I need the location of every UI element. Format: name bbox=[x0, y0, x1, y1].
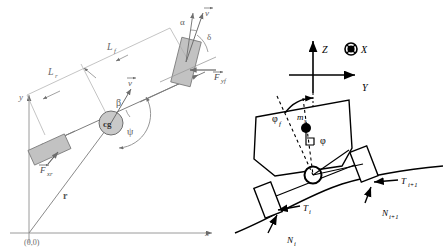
label-r-text: r bbox=[63, 190, 68, 201]
position-vector-r bbox=[29, 123, 111, 233]
label-phi-f-text: φ bbox=[272, 113, 278, 124]
label-Lr: L r bbox=[47, 66, 58, 80]
label-Ni1-sub: i+1 bbox=[389, 213, 398, 220]
x-axis-label: x bbox=[204, 228, 209, 238]
psi-yaw-arc bbox=[119, 97, 151, 148]
label-Lf-sub: f bbox=[114, 47, 117, 55]
Z-axis-label: Z bbox=[322, 44, 328, 55]
label-ms-text: m bbox=[297, 112, 304, 122]
circle-cross-icon bbox=[345, 43, 357, 55]
label-Lf-text: L bbox=[106, 41, 113, 52]
label-Ni-sub: i bbox=[294, 240, 296, 247]
right-panel-group: Z Y X φ f φ m s T i N i T i+1 bbox=[235, 41, 443, 247]
label-Fxr-sub: xr bbox=[46, 170, 53, 177]
alpha-angle-arc bbox=[191, 30, 197, 31]
label-v-front: v bbox=[204, 8, 213, 18]
label-Ni: N i bbox=[286, 235, 296, 247]
label-Fxr: F xr bbox=[39, 165, 53, 177]
label-delta: δ bbox=[207, 32, 211, 42]
label-Ti-sub: i bbox=[309, 208, 311, 215]
right-normal-force-arrow bbox=[365, 187, 371, 203]
label-psi: ψ bbox=[127, 126, 134, 137]
label-v-cg: v bbox=[127, 78, 136, 88]
X-axis-label: X bbox=[360, 44, 368, 55]
label-Ni-text: N bbox=[286, 235, 294, 245]
label-beta: β bbox=[116, 97, 121, 108]
beta-angle-arc bbox=[126, 110, 130, 117]
label-Fyf: F yf bbox=[213, 72, 227, 84]
right-tangential-force-arrow bbox=[374, 180, 398, 182]
label-Ti1: T i+1 bbox=[401, 176, 417, 188]
label-Ti1-sub: i+1 bbox=[408, 181, 417, 188]
label-Lr-text: L bbox=[47, 66, 54, 77]
label-Ni1: N i+1 bbox=[381, 208, 398, 220]
diagram-svg: x y (0,0) L f L r cg β ψ α δ v v bbox=[0, 0, 446, 251]
label-Fyf-text: F bbox=[213, 72, 220, 82]
label-v-cg-text: v bbox=[128, 78, 132, 88]
label-Fxr-text: F bbox=[39, 165, 46, 175]
label-Ni1-text: N bbox=[381, 208, 389, 218]
figure-container: x y (0,0) L f L r cg β ψ α δ v v bbox=[0, 0, 446, 251]
Y-axis-label: Y bbox=[362, 82, 369, 93]
label-phi: φ bbox=[320, 135, 326, 146]
label-Lr-sub: r bbox=[55, 72, 58, 80]
label-Ti1-text: T bbox=[401, 176, 407, 186]
label-cg: cg bbox=[103, 119, 112, 129]
label-Ti: T i bbox=[303, 203, 311, 215]
left-wheel bbox=[254, 182, 282, 218]
rear-wheel bbox=[28, 134, 71, 165]
label-Lf: L f bbox=[106, 41, 117, 55]
left-panel-group: x y (0,0) L f L r cg β ψ α δ v v bbox=[10, 8, 227, 247]
right-wheel bbox=[350, 146, 378, 182]
label-alpha: α bbox=[180, 17, 185, 27]
label-v-front-text: v bbox=[205, 8, 209, 18]
label-r: r bbox=[63, 190, 68, 201]
y-axis-label: y bbox=[18, 92, 23, 102]
label-Fyf-sub: yf bbox=[220, 77, 227, 84]
origin-label: (0,0) bbox=[24, 238, 40, 247]
